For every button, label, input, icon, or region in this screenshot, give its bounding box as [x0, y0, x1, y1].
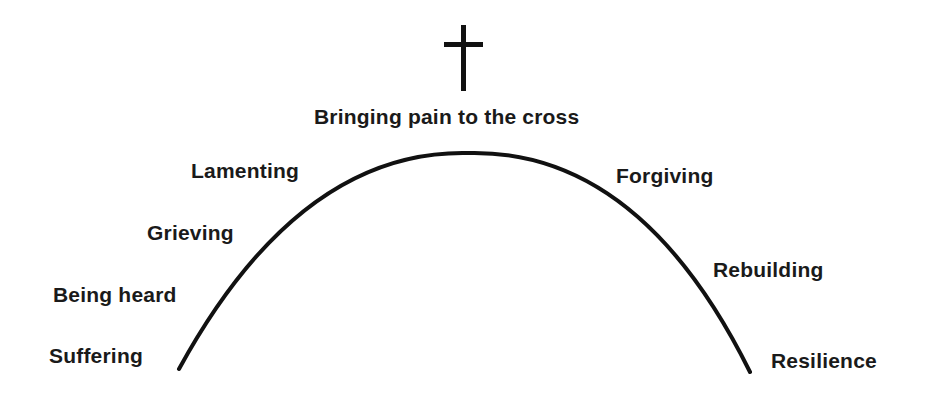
stage-forgiving: Forgiving	[616, 164, 713, 188]
stage-grieving: Grieving	[147, 221, 234, 245]
stage-suffering: Suffering	[49, 344, 143, 368]
cross-icon	[444, 25, 483, 91]
stage-resilience: Resilience	[771, 349, 877, 373]
arc-diagram	[0, 0, 932, 396]
stage-being-heard: Being heard	[53, 283, 177, 307]
stage-lamenting: Lamenting	[191, 159, 299, 183]
apex-label: Bringing pain to the cross	[314, 105, 579, 129]
stage-rebuilding: Rebuilding	[713, 258, 824, 282]
